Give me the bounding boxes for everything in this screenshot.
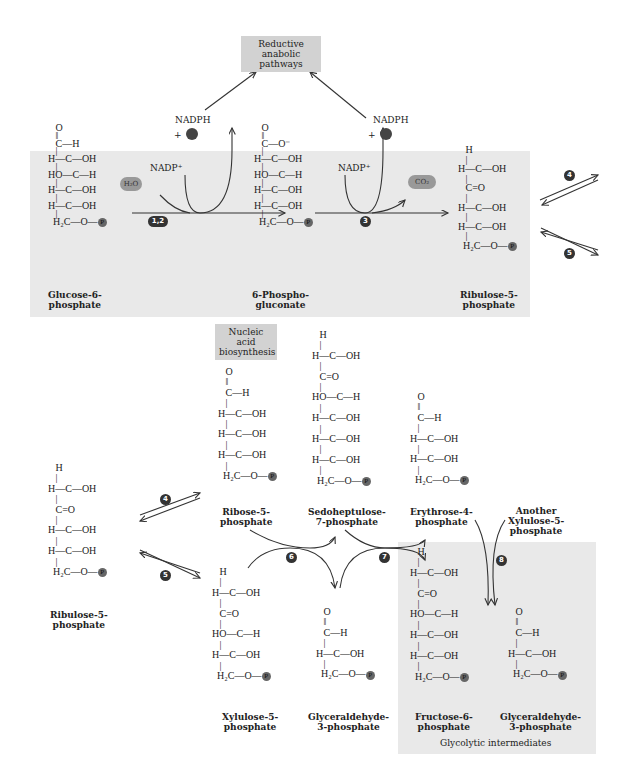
glyceraldehyde-3-phosphate-structure-middle: O ‖ C—H | H—C—OH | H₂C—O—P: [316, 607, 375, 680]
6-phosphogluconate-structure: O ‖ C—O⁻ | H—C—OH | HO—C—H | H—C—OH | H—…: [254, 124, 313, 227]
step-6-marker: 6: [286, 552, 297, 563]
ribose-5-phosphate-structure: O ‖ C—H | H—C—OH | H—C—OH | H—C—OH | H₂C…: [218, 367, 277, 481]
phosphate-icon: P: [460, 476, 469, 485]
another-xylulose-5-phosphate-label: Another Xylulose-5- phosphate: [508, 506, 564, 536]
ribose-5-phosphate-label: Ribose-5- phosphate: [220, 507, 272, 527]
glyceraldehyde-3-phosphate-label-right: Glyceraldehyde- 3-phosphate: [500, 712, 581, 732]
plus-1: +: [174, 130, 182, 140]
electron-icon-1: [186, 128, 198, 140]
phosphate-icon: P: [98, 568, 107, 577]
sedoheptulose-7-phosphate-structure: H | H—C—OH | C=O | HO—C—H | H—C—OH | H—C…: [312, 330, 371, 486]
electron-icon-2: [380, 128, 392, 140]
ribulose-5-phosphate-structure-bottom: H | H—C—OH | C=O | H—C—OH | H—C—OH | H₂C…: [48, 463, 107, 577]
ribulose-5-phosphate-label-top: Ribulose-5- phosphate: [460, 290, 518, 310]
ribulose-5-phosphate-label-bottom: Ribulose-5- phosphate: [50, 610, 108, 630]
glyceraldehyde-3-phosphate-structure-right: O ‖ C—H | H—C—OH | H₂C—O—P: [508, 607, 567, 680]
glyceraldehyde-3-phosphate-label-middle: Glyceraldehyde- 3-phosphate: [308, 712, 389, 732]
phosphate-icon: P: [98, 218, 107, 227]
water-molecule-icon: H₂O: [120, 177, 142, 191]
phosphate-icon: P: [362, 477, 371, 486]
ribulose-5-phosphate-structure-top: H | H—C—OH | C=O | H—C—OH | H—C—OH | H₂C…: [458, 145, 517, 251]
glucose-6-phosphate-structure: O ‖ C—H | H—C—OH | HO—C—H | H—C—OH | H—C…: [48, 124, 107, 227]
nadph-label-2: NADPH: [373, 115, 409, 125]
nadp-label-1: NADP⁺: [150, 163, 182, 173]
phosphate-icon: P: [268, 472, 277, 481]
step-4-marker-top: 4: [564, 170, 575, 181]
xylulose-5-phosphate-label: Xylulose-5- phosphate: [222, 712, 278, 732]
fructose-6-phosphate-structure: H | H—C—OH | C=O | HO—C—H | H—C—OH | H—C…: [410, 547, 469, 682]
step-1-2-marker: 1,2: [148, 216, 168, 227]
phosphate-icon: P: [262, 672, 271, 681]
sedoheptulose-7-phosphate-label: Sedoheptulose- 7-phosphate: [308, 507, 386, 527]
reductive-anabolic-pathways-box: Reductive anabolic pathways: [241, 36, 321, 72]
nadph-label-1: NADPH: [175, 115, 211, 125]
phosphate-icon: P: [508, 242, 517, 251]
plus-2: +: [368, 130, 376, 140]
xylulose-5-phosphate-structure: H | H—C—OH | C=O | HO—C—H | H—C—OH | H₂C…: [212, 567, 271, 681]
nadp-label-2: NADP⁺: [338, 163, 370, 173]
glucose-6-phosphate-label: Glucose-6- phosphate: [48, 290, 102, 310]
step-8-marker: 8: [496, 555, 507, 566]
step-5-marker-bottom: 5: [160, 570, 171, 581]
step-7-marker: 7: [379, 552, 390, 563]
phosphate-icon: P: [304, 218, 313, 227]
fructose-6-phosphate-label: Fructose-6- phosphate: [415, 712, 473, 732]
glycolytic-intermediates-label: Glycolytic intermediates: [440, 738, 551, 748]
phosphate-icon: P: [366, 671, 375, 680]
step-4-marker-bottom: 4: [160, 494, 171, 505]
erythrose-4-phosphate-label: Erythrose-4- phosphate: [410, 507, 473, 527]
phosphate-icon: P: [460, 673, 469, 682]
phosphate-icon: P: [558, 671, 567, 680]
step-5-marker-top: 5: [564, 248, 575, 259]
erythrose-4-phosphate-structure: O ‖ C—H | H—C—OH | H—C—OH | H₂C—O—P: [410, 392, 469, 486]
nucleic-acid-biosynthesis-box: Nucleic acid biosynthesis: [215, 324, 277, 360]
6-phosphogluconate-label: 6-Phospho- gluconate: [252, 290, 309, 310]
step-3-marker: 3: [360, 216, 371, 227]
co2-molecule-icon: CO₂: [408, 175, 436, 189]
